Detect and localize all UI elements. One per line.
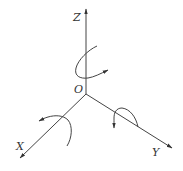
z-rotation-arrow-icon xyxy=(76,46,108,78)
z-axis-label: Z xyxy=(72,11,81,24)
x-rotation-arrow-icon xyxy=(39,116,71,146)
origin-label: O xyxy=(74,83,83,96)
x-axis xyxy=(20,94,86,158)
y-axis-label: Y xyxy=(152,146,161,159)
x-axis-label: X xyxy=(15,140,25,153)
coordinate-system-diagram: Z X Y O xyxy=(0,0,183,171)
y-rotation-arrow-icon xyxy=(114,108,138,128)
y-axis xyxy=(86,94,172,148)
